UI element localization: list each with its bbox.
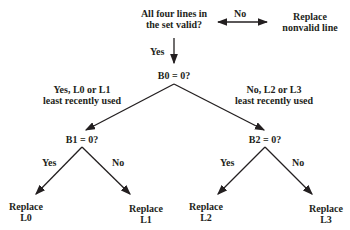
l0-line1: Replace <box>6 201 46 212</box>
l1-line1: Replace <box>126 203 166 214</box>
l2-line1: Replace <box>186 201 226 212</box>
l2-line2: L2 <box>186 212 226 223</box>
b0-no-label: No, L2 or L3 least recently used <box>224 84 324 106</box>
b0-no-line2: least recently used <box>224 95 324 106</box>
b0-decision: B0 = 0? <box>148 70 200 81</box>
b1-yes-label: Yes <box>42 157 56 168</box>
b2-yes-label: Yes <box>220 157 234 168</box>
l0-line2: L0 <box>6 212 46 223</box>
leaf-replace-l3: Replace L3 <box>306 203 346 225</box>
diagram-edges <box>0 0 350 230</box>
b0-yes-line1: Yes, L0 or L1 <box>32 84 132 95</box>
leaf-replace-l2: Replace L2 <box>186 201 226 223</box>
nonvalid-line2: nonvalid line <box>272 22 348 33</box>
root-yes-label: Yes <box>150 46 164 57</box>
b1-no-label: No <box>112 157 124 168</box>
l1-line2: L1 <box>126 214 166 225</box>
b2-no-label: No <box>292 157 304 168</box>
b0-yes-label: Yes, L0 or L1 least recently used <box>32 84 132 106</box>
b0-yes-line2: least recently used <box>32 95 132 106</box>
b1-no-arrow <box>82 147 130 194</box>
root-no-label: No <box>234 8 246 19</box>
b2-yes-arrow <box>218 147 265 194</box>
b1-yes-arrow <box>36 147 82 194</box>
root-line1: All four lines in <box>124 8 224 19</box>
nonvalid-line1: Replace <box>272 11 348 22</box>
root-decision: All four lines in the set valid? <box>124 8 224 30</box>
replace-nonvalid-result: Replace nonvalid line <box>272 11 348 33</box>
leaf-replace-l1: Replace L1 <box>126 203 166 225</box>
b2-decision: B2 = 0? <box>239 134 291 145</box>
root-line2: the set valid? <box>124 19 224 30</box>
b1-decision: B1 = 0? <box>56 134 108 145</box>
l3-line1: Replace <box>306 203 346 214</box>
leaf-replace-l0: Replace L0 <box>6 201 46 223</box>
b2-no-arrow <box>265 147 312 194</box>
b0-no-line1: No, L2 or L3 <box>224 84 324 95</box>
l3-line2: L3 <box>306 214 346 225</box>
